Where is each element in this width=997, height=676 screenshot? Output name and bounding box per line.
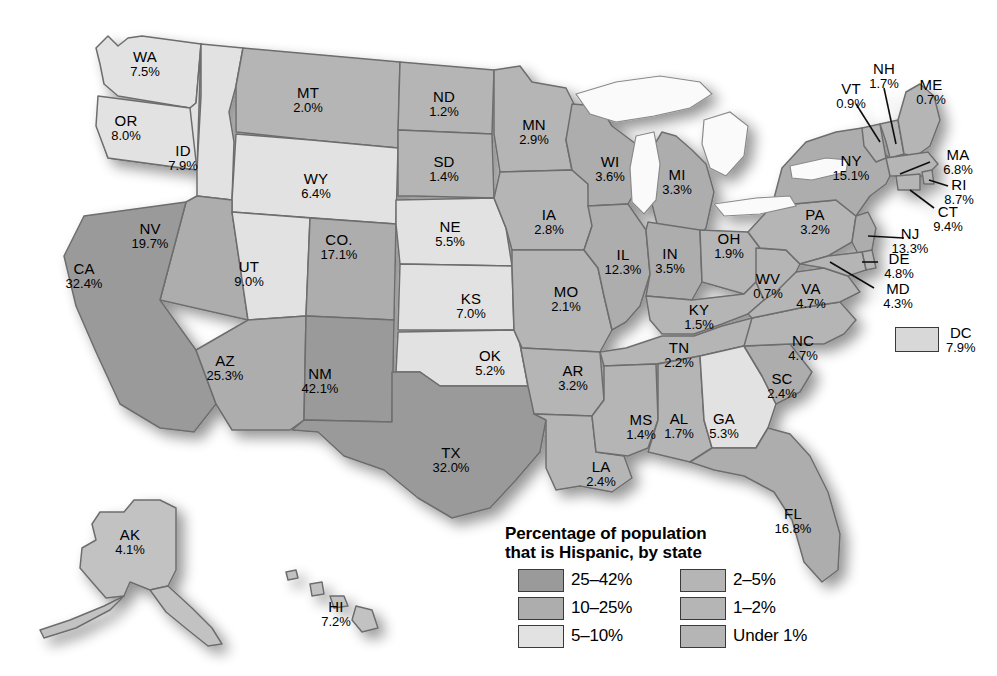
- legend-row-0: 25–42%: [518, 569, 660, 592]
- state-AK-aleutians: [40, 596, 124, 638]
- state-ME: [898, 84, 940, 156]
- state-ND: [398, 62, 494, 134]
- state-AK-panhandle: [150, 586, 222, 646]
- dc-value: 7.9%: [946, 341, 976, 355]
- state-SD: [398, 130, 494, 198]
- legend-label: 5–10%: [571, 626, 623, 646]
- state-RI: [922, 170, 934, 184]
- state-HI-3: [330, 596, 348, 608]
- legend-label: 10–25%: [571, 598, 632, 618]
- state-HI-2: [310, 582, 324, 596]
- dc-swatch: [895, 327, 939, 352]
- legend-title: Percentage of population that is Hispani…: [505, 524, 835, 563]
- state-MT: [236, 48, 400, 148]
- state-HI-4: [352, 606, 378, 632]
- state-OH: [700, 230, 760, 294]
- legend-label: 25–42%: [571, 570, 632, 590]
- state-CO: [306, 218, 396, 320]
- legend-row-3: 2–5%: [680, 569, 835, 592]
- swatch-1-2: [680, 597, 726, 620]
- state-AR: [520, 344, 604, 416]
- state-IA: [494, 170, 592, 250]
- state-MN: [494, 66, 574, 172]
- legend-classes: 25–42%2–5%10–25%1–2%5–10%Under 1%: [518, 569, 835, 648]
- us-choropleth-map: [0, 0, 997, 676]
- map-figure: WA7.5%OR8.0%ID7.9%MT2.0%WY6.4%NV19.7%UT9…: [0, 0, 997, 676]
- dc-label: DC 7.9%: [946, 325, 976, 354]
- legend-label: Under 1%: [733, 626, 807, 646]
- lake-huron: [702, 112, 748, 176]
- state-OR2: [96, 96, 197, 170]
- dc-abbr: DC: [946, 325, 976, 341]
- swatch-under-1: [680, 625, 726, 648]
- legend-title-line2: that is Hispanic, by state: [505, 543, 835, 562]
- swatch-2-5: [680, 569, 726, 592]
- state-CT: [896, 174, 920, 190]
- swatch-5-10: [518, 625, 564, 648]
- legend-label: 2–5%: [733, 570, 776, 590]
- map-legend: Percentage of population that is Hispani…: [505, 524, 835, 648]
- state-HI-1: [286, 570, 298, 580]
- legend-label: 1–2%: [733, 598, 776, 618]
- state-AZ: [196, 316, 306, 430]
- legend-row-5: Under 1%: [680, 625, 835, 648]
- legend-row-1: 10–25%: [518, 597, 660, 620]
- legend-title-line1: Percentage of population: [505, 524, 835, 543]
- state-AK: [80, 500, 176, 598]
- state-KS: [398, 264, 514, 330]
- state-IN: [646, 222, 702, 300]
- legend-row-4: 1–2%: [680, 597, 835, 620]
- swatch-10-25: [518, 597, 564, 620]
- legend-row-2: 5–10%: [518, 625, 660, 648]
- dc-callout: DC 7.9%: [895, 325, 976, 354]
- state-WY: [232, 134, 398, 224]
- state-NM: [304, 316, 394, 422]
- state-NE: [396, 198, 512, 266]
- swatch-25-42: [518, 569, 564, 592]
- lake-superior: [576, 76, 712, 122]
- leader-CT: [910, 190, 934, 208]
